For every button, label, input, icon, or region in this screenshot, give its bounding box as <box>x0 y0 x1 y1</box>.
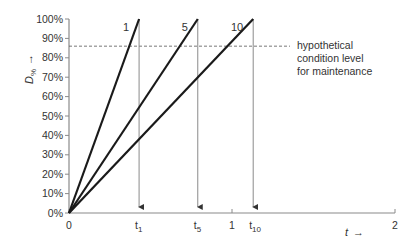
series-label: 1 <box>123 21 129 33</box>
x-axis-title: t→ <box>345 226 364 238</box>
y-tick-label: 40% <box>42 129 63 141</box>
y-tick-label: 60% <box>42 90 63 102</box>
y-axis-title: D%→ <box>23 54 38 84</box>
drop-arrows: t1t5t10 <box>135 19 261 234</box>
y-tick-label: 90% <box>42 32 63 44</box>
y-tick-label: 30% <box>42 148 63 160</box>
y-tick-label: 70% <box>42 71 63 83</box>
y-tick-label: 0% <box>48 207 63 219</box>
x-tick-label: 1 <box>229 219 235 231</box>
threshold-label: hypothetical condition level for mainten… <box>297 39 372 77</box>
series-label: 10 <box>231 21 243 33</box>
y-tick-label: 50% <box>42 110 63 122</box>
series-label: 5 <box>182 21 188 33</box>
threshold-label-line-2: condition level <box>297 52 364 64</box>
series-lines: 1510 <box>69 19 253 213</box>
y-tick-label: 20% <box>42 168 63 180</box>
t-label: t10 <box>249 219 261 234</box>
threshold-label-line-1: hypothetical <box>297 39 353 51</box>
y-axis: 0%10%20%30%40%50%60%70%80%90%100% <box>36 13 69 219</box>
series-line-1 <box>69 19 139 213</box>
t-label: t1 <box>135 219 143 234</box>
x-tick-label: 0 <box>66 219 72 231</box>
t-label: t5 <box>194 219 202 234</box>
y-tick-label: 80% <box>42 51 63 63</box>
y-tick-label: 10% <box>42 187 63 199</box>
x-axis: 012 <box>66 209 398 231</box>
degradation-chart: 0%10%20%30%40%50%60%70%80%90%100% 012 t1… <box>0 0 418 245</box>
threshold-label-line-3: for maintenance <box>297 65 372 77</box>
series-line-5 <box>69 19 198 213</box>
x-tick-label: 2 <box>392 219 398 231</box>
y-tick-label: 100% <box>36 13 63 25</box>
series-line-10 <box>69 19 253 213</box>
